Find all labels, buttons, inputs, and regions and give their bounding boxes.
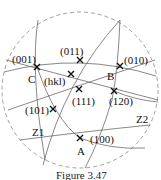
- stereographic-projection: (001) (011) (010) (hkl) (111) (120) (101…: [0, 0, 161, 180]
- pole-100-marker-icon: [77, 135, 83, 141]
- zone-label-z2: Z2: [136, 113, 148, 125]
- label-101: (101): [25, 104, 49, 117]
- pole-hkl-marker-icon: [68, 71, 74, 77]
- zone-label-z1: Z1: [32, 126, 44, 138]
- label-010: (010): [124, 54, 148, 67]
- label-011: (011): [60, 45, 84, 58]
- pole-011-marker-icon: [77, 57, 83, 63]
- point-c: C: [28, 73, 35, 85]
- label-hkl: (hkl): [44, 75, 66, 88]
- point-b: B: [107, 70, 114, 82]
- figure-caption: Figure 3.47: [56, 169, 107, 180]
- zone-z1-left: [35, 20, 45, 160]
- label-111: (111): [72, 95, 95, 108]
- label-120: (120): [109, 95, 133, 108]
- point-a: A: [77, 145, 85, 157]
- label-100: (100): [90, 133, 114, 146]
- label-001: (001): [12, 53, 36, 66]
- pole-111-marker-icon: [76, 86, 82, 92]
- zone-010-100: [85, 20, 120, 168]
- pole-010-marker-icon: [117, 63, 123, 69]
